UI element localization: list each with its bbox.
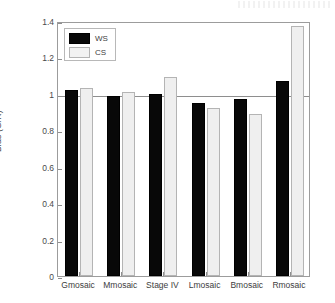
y-tick-mark bbox=[58, 169, 62, 170]
legend-label-ws: WS bbox=[95, 33, 108, 44]
y-tick-label: 1.2 bbox=[14, 53, 54, 63]
bar-cs-mmosaic bbox=[122, 92, 135, 276]
y-tick-label: 1 bbox=[14, 90, 54, 100]
x-tick-label-bmosaic: Bmosaic bbox=[230, 280, 263, 290]
bar-ws-mmosaic bbox=[107, 96, 120, 276]
y-tick-label: 1.4 bbox=[14, 17, 54, 27]
legend-swatch-cs bbox=[69, 47, 90, 58]
x-tick-label-lmosaic: Lmosaic bbox=[189, 280, 221, 290]
legend-swatch-ws bbox=[69, 33, 90, 44]
y-tick-label: 0.8 bbox=[14, 126, 54, 136]
x-tick-label-gmosaic: Gmosaic bbox=[61, 280, 95, 290]
legend-entry-ws: WS bbox=[69, 33, 113, 44]
bar-ws-rmosaic bbox=[276, 81, 289, 276]
bar-cs-lmosaic bbox=[207, 108, 220, 276]
x-tick-mark bbox=[206, 272, 207, 276]
plot-area: WS CS bbox=[57, 22, 310, 277]
y-tick-mark bbox=[58, 132, 62, 133]
chart-legend: WS CS bbox=[64, 28, 116, 61]
reference-line bbox=[58, 96, 309, 97]
x-tick-mark bbox=[290, 272, 291, 276]
x-tick-mark bbox=[79, 272, 80, 276]
legend-label-cs: CS bbox=[95, 47, 106, 58]
y-tick-mark bbox=[58, 278, 62, 279]
y-tick-mark bbox=[58, 205, 62, 206]
legend-entry-cs: CS bbox=[69, 47, 113, 58]
y-tick-mark bbox=[58, 59, 62, 60]
header-artifact-strip bbox=[238, 1, 332, 8]
bar-ws-stage-iv bbox=[149, 94, 162, 276]
bar-cs-stage-iv bbox=[164, 77, 177, 276]
bar-cs-gmosaic bbox=[80, 88, 93, 276]
bar-cs-rmosaic bbox=[291, 26, 304, 276]
bar-ws-gmosaic bbox=[65, 90, 78, 276]
bar-ws-lmosaic bbox=[192, 103, 205, 276]
x-tick-mark bbox=[121, 272, 122, 276]
x-tick-label-stage-iv: Stage IV bbox=[146, 280, 179, 290]
y-tick-mark bbox=[58, 242, 62, 243]
y-tick-mark bbox=[58, 23, 62, 24]
y-tick-label: 0.6 bbox=[14, 163, 54, 173]
y-tick-label: 0.4 bbox=[14, 199, 54, 209]
x-tick-mark bbox=[248, 272, 249, 276]
bar-chart-figure: Bias (G/R) WS CS 00.20.40.60.811.21.4 Gm… bbox=[0, 0, 335, 303]
y-tick-label: 0.2 bbox=[14, 236, 54, 246]
y-tick-label: 0 bbox=[14, 272, 54, 282]
x-tick-mark bbox=[163, 272, 164, 276]
y-axis-label: Bias (G/R) bbox=[0, 110, 3, 152]
x-tick-label-rmosaic: Rmosaic bbox=[272, 280, 305, 290]
x-tick-label-mmosaic: Mmosaic bbox=[103, 280, 137, 290]
bar-cs-bmosaic bbox=[249, 114, 262, 276]
bar-ws-bmosaic bbox=[234, 99, 247, 276]
